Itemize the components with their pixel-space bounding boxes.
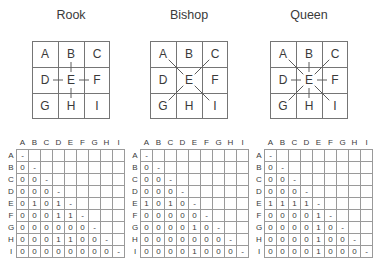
matrix-cell-EA: 0 <box>17 198 29 210</box>
matrix-cell-FB: 0 <box>29 210 41 222</box>
matrix-cell-DF <box>201 186 213 198</box>
matrix-cell-CE <box>189 174 201 186</box>
matrix-cell-IA: 0 <box>141 246 153 258</box>
matrix-cell-GI <box>361 222 373 234</box>
matrix-cell-BB: - <box>153 162 165 174</box>
matrix-cell-CG <box>213 174 225 186</box>
matrix-cell-GG: - <box>213 222 225 234</box>
board-queen: ABCDEFGHI <box>270 41 348 119</box>
matrix-cell-GE: 0 <box>65 222 77 234</box>
board-cell-letter-E: E <box>67 73 75 87</box>
matrix-cell-CC: - <box>165 174 177 186</box>
matrix-cell-FH <box>101 210 113 222</box>
matrix-row-G: G000010- <box>254 222 373 234</box>
matrix-row-header-E: E <box>254 198 265 210</box>
board-cell-letter-F: F <box>211 73 218 87</box>
matrix-row-I: I00000000- <box>6 246 125 258</box>
matrix-cell-CH <box>101 174 113 186</box>
matrix-cell-DG <box>89 186 101 198</box>
matrix-cell-HI <box>361 234 373 246</box>
matrix-row-D: D000- <box>130 186 249 198</box>
matrix-cell-CH <box>225 174 237 186</box>
matrix-cell-HF: 0 <box>77 234 89 246</box>
matrix-cell-IE: 0 <box>65 246 77 258</box>
matrix-cell-BF <box>325 162 337 174</box>
matrix-cell-EI <box>113 198 125 210</box>
piece-title-queen: Queen <box>270 8 348 23</box>
matrix-cell-FB: 0 <box>277 210 289 222</box>
matrix-row-header-D: D <box>254 186 265 198</box>
matrix-cell-GA: 0 <box>17 222 29 234</box>
matrix-cell-HE: 1 <box>65 234 77 246</box>
matrix-row-header-G: G <box>254 222 265 234</box>
matrix-cell-DH <box>101 186 113 198</box>
matrix-cell-HB: 0 <box>277 234 289 246</box>
board-bishop: ABCDEFGHI <box>150 41 228 119</box>
matrix-cell-FB: 0 <box>153 210 165 222</box>
matrix-row-A: A- <box>6 150 125 162</box>
adjacency-matrix-rook: ABCDEFGHIA-B0-C00-D000-E0101-F00011-G000… <box>6 136 125 258</box>
board-cell-letter-D: D <box>279 73 288 87</box>
matrix-row-E: E1010- <box>130 198 249 210</box>
matrix-row-D: D000- <box>254 186 373 198</box>
board-rook: ABCDEFGHI <box>32 41 110 119</box>
matrix-cell-BG <box>213 162 225 174</box>
board-cell-letter-H: H <box>67 99 76 113</box>
matrix-cell-CA: 0 <box>17 174 29 186</box>
matrix-cell-CI <box>361 174 373 186</box>
matrix-cell-AH <box>225 150 237 162</box>
matrix-cell-EI <box>237 198 249 210</box>
matrix-col-header-F: F <box>77 136 89 150</box>
matrix-cell-ED: 1 <box>301 198 313 210</box>
matrix-cell-EA: 1 <box>141 198 153 210</box>
matrix-cell-GD: 0 <box>177 222 189 234</box>
matrix-col-header-B: B <box>153 136 165 150</box>
matrix-cell-AF <box>325 150 337 162</box>
matrix-cell-AG <box>89 150 101 162</box>
matrix-cell-CE <box>65 174 77 186</box>
matrix-cell-FC: 0 <box>41 210 53 222</box>
matrix-row-header-F: F <box>130 210 141 222</box>
matrix-cell-HE: 0 <box>189 234 201 246</box>
matrix-cell-HI <box>113 234 125 246</box>
matrix-cell-CI <box>237 174 249 186</box>
matrix-row-G: G000000- <box>6 222 125 234</box>
matrix-cell-FI <box>361 210 373 222</box>
matrix-cell-IH: 0 <box>349 246 361 258</box>
matrix-cell-CD <box>53 174 65 186</box>
matrix-col-header-A: A <box>265 136 277 150</box>
matrix-row-D: D000- <box>6 186 125 198</box>
board-cell-letter-G: G <box>40 99 49 113</box>
matrix-col-header-B: B <box>29 136 41 150</box>
matrix-cell-CI <box>113 174 125 186</box>
matrix-cell-IA: 0 <box>265 246 277 258</box>
matrix-row-F: F00001- <box>254 210 373 222</box>
matrix-cell-AH <box>349 150 361 162</box>
matrix-row-G: G000010- <box>130 222 249 234</box>
piece-title-rook: Rook <box>32 8 110 23</box>
matrix-cell-GE: 1 <box>313 222 325 234</box>
matrix-cell-AB <box>29 150 41 162</box>
matrix-cell-CG <box>337 174 349 186</box>
board-cell-letter-B: B <box>305 47 313 61</box>
matrix-cell-DI <box>237 186 249 198</box>
matrix-cell-EB: 0 <box>153 198 165 210</box>
matrix-cell-EH <box>101 198 113 210</box>
matrix-cell-GB: 0 <box>277 222 289 234</box>
matrix-cell-BI <box>237 162 249 174</box>
matrix-row-header-G: G <box>130 222 141 234</box>
matrix-row-header-B: B <box>130 162 141 174</box>
matrix-cell-BG <box>89 162 101 174</box>
matrix-cell-AB <box>153 150 165 162</box>
matrix-col-header-D: D <box>53 136 65 150</box>
matrix-cell-IF: 0 <box>77 246 89 258</box>
matrix-cell-EC: 1 <box>289 198 301 210</box>
matrix-header-row: ABCDEFGHI <box>130 136 249 150</box>
matrix-cell-GH <box>349 222 361 234</box>
matrix-cell-HH: - <box>225 234 237 246</box>
matrix-cell-FI <box>237 210 249 222</box>
matrix-cell-IC: 0 <box>41 246 53 258</box>
matrix-cell-BE <box>65 162 77 174</box>
matrix-cell-BH <box>101 162 113 174</box>
matrix-cell-AG <box>337 150 349 162</box>
